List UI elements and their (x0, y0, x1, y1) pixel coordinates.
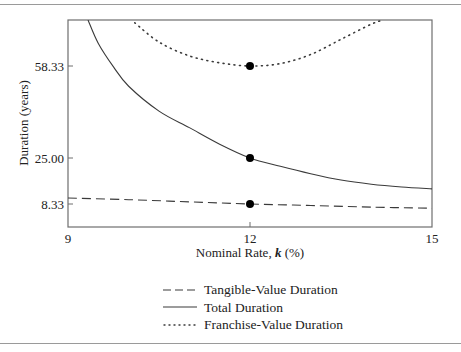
franchise-value-durationline (135, 20, 384, 66)
bottom-rule (0, 343, 461, 344)
solid-line-icon (163, 302, 197, 312)
series-layer (68, 20, 432, 208)
data-point (246, 200, 254, 208)
data-point (246, 62, 254, 70)
dotted-line-icon (163, 320, 197, 330)
x-axis-title-suffix: (%) (281, 245, 304, 260)
highlight-points (246, 62, 254, 208)
x-axis-title-prefix: Nominal Rate, (196, 245, 275, 260)
x-tick-label: 12 (244, 231, 257, 246)
x-axis-title: Nominal Rate, k (%) (196, 245, 304, 260)
duration-chart: 8.3325.0058.3391215 Duration (years) Nom… (0, 0, 461, 280)
plot-frame (68, 20, 432, 227)
x-tick-label: 15 (426, 231, 439, 246)
legend-label: Franchise-Value Duration (204, 316, 343, 333)
legend-label: Total Duration (204, 299, 283, 316)
plot-border (68, 20, 432, 227)
y-tick-label: 8.33 (41, 197, 64, 212)
dashed-line-icon (163, 285, 197, 295)
legend-label: Tangible-Value Duration (204, 281, 338, 298)
legend-item-total: Total Duration (163, 299, 343, 317)
data-point (246, 154, 254, 162)
legend-item-tangible: Tangible-Value Duration (163, 281, 343, 299)
x-tick-label: 9 (65, 231, 72, 246)
legend-item-franchise: Franchise-Value Duration (163, 316, 343, 334)
y-axis-title: Duration (years) (16, 80, 31, 166)
y-tick-label: 58.33 (35, 59, 64, 74)
legend: Tangible-Value Duration Total Duration F… (163, 281, 343, 334)
total-durationline (88, 20, 432, 189)
y-tick-label: 25.00 (35, 151, 64, 166)
